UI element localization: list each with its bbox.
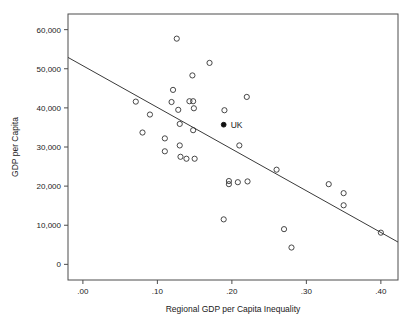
data-point (140, 130, 145, 135)
data-point-highlight (221, 122, 226, 127)
data-point (226, 182, 231, 187)
data-point (326, 182, 331, 187)
data-point (170, 87, 175, 92)
data-point (147, 112, 152, 117)
data-point (162, 149, 167, 154)
data-point (192, 156, 197, 161)
data-point (207, 60, 212, 65)
x-axis-title: Regional GDP per Capita Inequality (166, 304, 301, 314)
y-tick-label: 50,000 (37, 65, 62, 74)
data-point (169, 99, 174, 104)
data-point (222, 108, 227, 113)
y-tick-label: 20,000 (37, 182, 62, 191)
data-point (174, 36, 179, 41)
y-axis-title: GDP per Capita (10, 117, 20, 177)
data-point (178, 154, 183, 159)
y-tick-label: 60,000 (37, 26, 62, 35)
data-point (177, 121, 182, 126)
regression-line (68, 57, 398, 242)
data-point (162, 136, 167, 141)
data-point (235, 180, 240, 185)
x-tick-label: .20 (226, 287, 238, 296)
data-point (221, 217, 226, 222)
x-tick-label: .30 (301, 287, 313, 296)
data-point (245, 179, 250, 184)
plot-frame (68, 14, 398, 280)
data-point (191, 99, 196, 104)
data-point (281, 227, 286, 232)
data-point (237, 143, 242, 148)
data-point (133, 99, 138, 104)
data-point (190, 73, 195, 78)
data-point-label-uk: UK (231, 120, 243, 130)
data-point (191, 128, 196, 133)
x-tick-label: .40 (375, 287, 387, 296)
y-tick-label: 10,000 (37, 221, 62, 230)
data-point (274, 167, 279, 172)
data-point (244, 94, 249, 99)
scatter-plot: 010,00020,00030,00040,00050,00060,000.00… (0, 0, 410, 320)
data-point (177, 143, 182, 148)
x-tick-label: .10 (152, 287, 164, 296)
data-point (176, 107, 181, 112)
data-point (341, 203, 346, 208)
data-point (341, 191, 346, 196)
data-point (191, 106, 196, 111)
y-tick-label: 40,000 (37, 104, 62, 113)
chart-figure: 010,00020,00030,00040,00050,00060,000.00… (0, 0, 410, 320)
x-tick-label: .00 (77, 287, 89, 296)
y-tick-label: 0 (57, 260, 62, 269)
y-tick-label: 30,000 (37, 143, 62, 152)
data-point (184, 156, 189, 161)
data-point (289, 245, 294, 250)
